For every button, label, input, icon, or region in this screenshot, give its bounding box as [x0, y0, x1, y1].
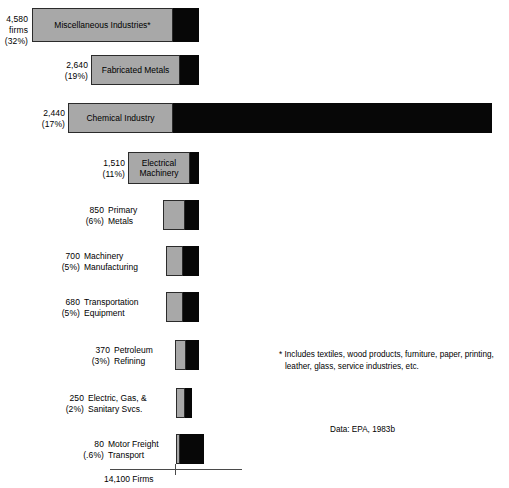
bar-outside-label-transportation-equipment: Transportation Equipment	[84, 297, 162, 319]
value-percent: (.6%)	[76, 450, 104, 461]
value-label-primary-metals: 850 (6%)	[76, 205, 104, 227]
value-number: 2,640	[58, 60, 88, 71]
value-suffix: firms	[0, 25, 28, 36]
axis-tick	[175, 464, 176, 475]
value-number: 2,440	[35, 108, 65, 119]
chart-row-electrical-machinery: 1,510 (11%) Electrical Machinery	[0, 152, 509, 186]
bar-label-line-1: Transportation	[84, 297, 162, 308]
bar-segment-gray	[176, 388, 185, 418]
bar-outside-label-primary-metals: Primary Metals	[108, 205, 158, 227]
bar-segment-gray	[166, 292, 183, 322]
bar-motor-freight-transport	[176, 434, 204, 464]
chart-row-motor-freight-transport: 80 (.6%) Motor Freight Transport	[0, 434, 509, 466]
bar-segment-cap	[185, 388, 192, 418]
footnote-line-1: * Includes textiles, wood products, furn…	[279, 349, 494, 361]
value-number: 700	[52, 251, 80, 262]
bar-segment-cap	[185, 200, 199, 230]
value-percent: (5%)	[52, 308, 80, 319]
chart-row-chemical-industry: 2,440 (17%) Chemical Industry	[0, 103, 509, 135]
bar-label-line-1: Primary	[108, 205, 158, 216]
axis-label: 14,100 Firms	[104, 474, 154, 484]
bar-segment-gray	[175, 340, 186, 370]
bar-inside-label: Electrical Machinery	[137, 158, 180, 179]
value-number: 80	[76, 439, 104, 450]
bar-label-line-1: Miscellaneous Industries*	[54, 20, 150, 31]
bar-segment-cap	[183, 246, 199, 276]
footnote-line-2: leather, glass, service industries, etc.	[279, 361, 494, 373]
bar-inside-label: Fabricated Metals	[100, 65, 172, 76]
bar-electric-gas-sanitary-services	[176, 388, 192, 418]
bar-segment-cap	[173, 103, 492, 133]
value-label-chemical-industry: 2,440 (17%)	[35, 108, 65, 130]
bar-label-line-1: Electrical	[139, 158, 178, 169]
bar-transportation-equipment	[166, 292, 199, 322]
value-number: 250	[56, 393, 84, 404]
bar-label-line-2: Machinery	[139, 168, 178, 179]
chart-row-transportation-equipment: 680 (5%) Transportation Equipment	[0, 292, 509, 324]
bar-machinery-manufacturing	[166, 246, 199, 276]
bar-petroleum-refining	[175, 340, 199, 370]
value-label-fabricated-metals: 2,640 (19%)	[58, 60, 88, 82]
bar-label-line-1: Chemical Industry	[86, 113, 154, 124]
bar-segment-gray: Fabricated Metals	[91, 55, 180, 85]
bar-label-line-1: Petroleum	[114, 345, 172, 356]
bar-label-line-1: Fabricated Metals	[102, 65, 170, 76]
bar-segment-gray: Chemical Industry	[68, 103, 173, 133]
value-percent: (3%)	[82, 356, 110, 367]
bar-segment-cap	[180, 55, 199, 85]
bar-label-line-2: Sanitary Svcs.	[88, 404, 162, 415]
bar-label-line-1: Machinery	[84, 251, 162, 262]
value-label-motor-freight-transport: 80 (.6%)	[76, 439, 104, 461]
bar-segment-gray	[166, 246, 183, 276]
bar-segment-gray: Miscellaneous Industries*	[32, 8, 173, 42]
bar-label-line-2: Refining	[114, 356, 172, 367]
chart-row-miscellaneous-industries: 4,580 firms (32%) Miscellaneous Industri…	[0, 8, 509, 44]
bar-segment-cap	[190, 152, 199, 184]
value-number: 680	[52, 297, 80, 308]
bar-chart: 4,580 firms (32%) Miscellaneous Industri…	[0, 0, 509, 488]
value-label-machinery-manufacturing: 700 (5%)	[52, 251, 80, 273]
value-label-electric-gas-sanitary-services: 250 (2%)	[56, 393, 84, 415]
bar-label-line-1: Electric, Gas, &	[88, 393, 162, 404]
bar-outside-label-machinery-manufacturing: Machinery Manufacturing	[84, 251, 162, 273]
bar-segment-gray: Electrical Machinery	[128, 152, 190, 184]
value-label-miscellaneous-industries: 4,580 firms (32%)	[0, 14, 28, 47]
bar-inside-label: Chemical Industry	[84, 113, 156, 124]
value-percent: (11%)	[95, 169, 125, 180]
value-percent: (19%)	[58, 71, 88, 82]
bar-segment-cap	[180, 434, 204, 464]
value-percent: (5%)	[52, 262, 80, 273]
bar-segment-cap	[186, 340, 199, 370]
bar-outside-label-electric-gas-sanitary-services: Electric, Gas, & Sanitary Svcs.	[88, 393, 162, 415]
bar-miscellaneous-industries: Miscellaneous Industries*	[32, 8, 199, 42]
bar-outside-label-petroleum-refining: Petroleum Refining	[114, 345, 172, 367]
bar-electrical-machinery: Electrical Machinery	[128, 152, 199, 184]
bar-label-line-2: Transport	[108, 450, 174, 461]
bar-label-line-2: Metals	[108, 216, 158, 227]
chart-row-fabricated-metals: 2,640 (19%) Fabricated Metals	[0, 55, 509, 87]
chart-row-electric-gas-sanitary-services: 250 (2%) Electric, Gas, & Sanitary Svcs.	[0, 388, 509, 420]
bar-label-line-2: Manufacturing	[84, 262, 162, 273]
chart-row-primary-metals: 850 (6%) Primary Metals	[0, 200, 509, 232]
bar-outside-label-motor-freight-transport: Motor Freight Transport	[108, 439, 174, 461]
value-number: 4,580	[0, 14, 28, 25]
value-number: 1,510	[95, 158, 125, 169]
bar-segment-cap	[183, 292, 199, 322]
bar-segment-gray	[163, 200, 185, 230]
value-number: 850	[76, 205, 104, 216]
bar-chemical-industry: Chemical Industry	[68, 103, 492, 133]
bar-primary-metals	[163, 200, 199, 230]
bar-label-line-2: Equipment	[84, 308, 162, 319]
value-label-electrical-machinery: 1,510 (11%)	[95, 158, 125, 180]
footnote: * Includes textiles, wood products, furn…	[279, 349, 494, 373]
value-percent: (32%)	[0, 36, 28, 47]
value-percent: (6%)	[76, 216, 104, 227]
chart-row-machinery-manufacturing: 700 (5%) Machinery Manufacturing	[0, 246, 509, 278]
bar-label-line-1: Motor Freight	[108, 439, 174, 450]
bar-segment-cap	[173, 8, 199, 42]
data-source-label: Data: EPA, 1983b	[330, 425, 395, 434]
bar-fabricated-metals: Fabricated Metals	[91, 55, 199, 85]
value-percent: (17%)	[35, 119, 65, 130]
value-percent: (2%)	[56, 404, 84, 415]
axis-line	[110, 469, 242, 470]
